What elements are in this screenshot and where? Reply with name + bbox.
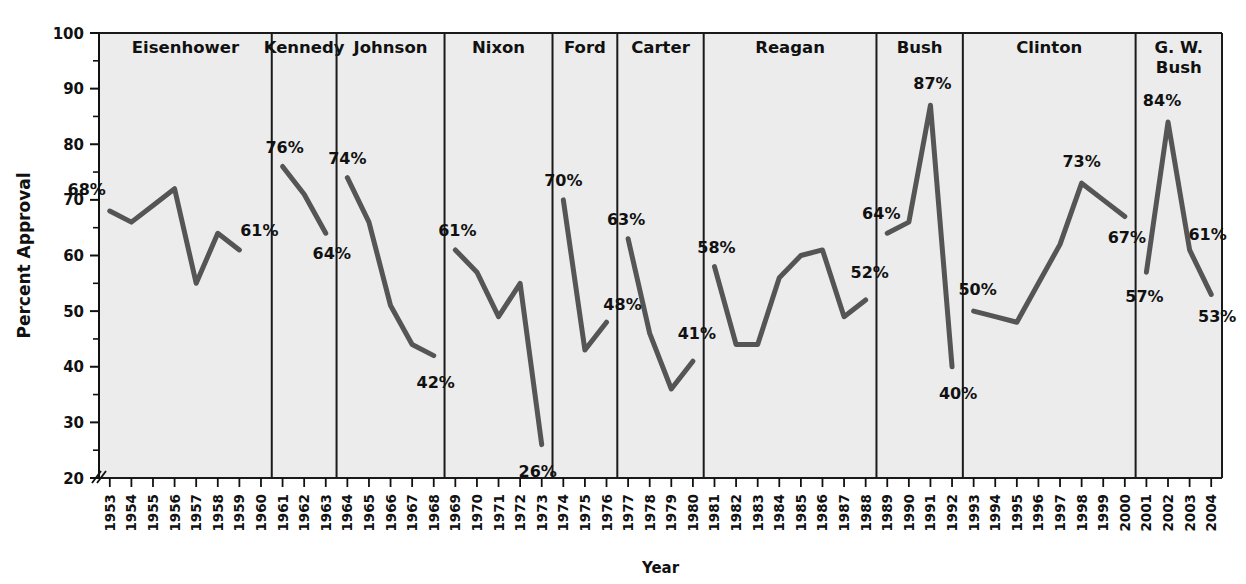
x-tick-label: 1958: [210, 494, 226, 532]
x-tick-label: 1979: [663, 494, 679, 532]
x-axis-title: Year: [641, 559, 680, 577]
x-tick-label: 1991: [922, 494, 938, 532]
panel-title-johnson: Johnson: [353, 38, 428, 57]
value-annotation: 73%: [1062, 152, 1100, 171]
y-tick-label: 60: [63, 247, 84, 265]
value-annotation: 41%: [678, 324, 716, 343]
value-annotation: 76%: [265, 138, 303, 157]
panel-title-ford: Ford: [564, 38, 606, 57]
panel-title-carter: Carter: [631, 38, 690, 57]
approval-rating-chart: EisenhowerKennedyJohnsonNixonFordCarterR…: [0, 0, 1246, 584]
value-annotation: 42%: [417, 373, 455, 392]
x-tick-label: 1981: [706, 494, 722, 532]
x-tick-label: 1960: [253, 494, 269, 532]
x-tick-label: 1978: [642, 494, 658, 532]
chart-canvas: EisenhowerKennedyJohnsonNixonFordCarterR…: [0, 0, 1246, 584]
x-tick-label: 2002: [1160, 494, 1176, 532]
x-tick-label: 1956: [167, 494, 183, 532]
value-annotation: 61%: [438, 221, 476, 240]
x-tick-label: 1987: [836, 494, 852, 532]
value-annotation: 57%: [1125, 287, 1163, 306]
x-tick-label: 1995: [1009, 494, 1025, 532]
value-annotation: 61%: [240, 221, 278, 240]
x-tick-label: 1955: [145, 494, 161, 532]
value-annotation: 61%: [1188, 225, 1226, 244]
x-tick-label: 1965: [361, 494, 377, 532]
x-tick-label: 1996: [1030, 494, 1046, 532]
x-tick-label: 1961: [275, 494, 291, 532]
x-tick-label: 1971: [491, 494, 507, 532]
panel-title-reagan: Reagan: [755, 38, 825, 57]
x-tick-label: 1963: [318, 494, 334, 532]
x-tick-label: 1986: [814, 494, 830, 532]
x-tick-label: 1954: [123, 494, 139, 532]
x-tick-label: 1972: [512, 494, 528, 532]
value-annotation: 67%: [1108, 228, 1146, 247]
x-tick-label: 2003: [1182, 494, 1198, 532]
x-tick-label: 1983: [750, 494, 766, 532]
value-annotation: 53%: [1198, 307, 1236, 326]
x-tick-label: 1968: [426, 494, 442, 532]
x-tick-label: 1998: [1074, 494, 1090, 532]
x-tick-label: 1999: [1095, 494, 1111, 532]
x-tick-label: 1973: [534, 494, 550, 532]
y-tick-label: 90: [63, 80, 84, 98]
x-tick-label: 1990: [901, 494, 917, 532]
x-tick-label: 1953: [102, 494, 118, 532]
y-tick-label: 50: [63, 303, 84, 321]
x-tick-label: 1974: [555, 494, 571, 532]
value-annotation: 64%: [313, 244, 351, 263]
value-annotation: 68%: [68, 180, 106, 199]
x-tick-label: 1967: [404, 494, 420, 532]
x-tick-label: 1970: [469, 494, 485, 532]
value-annotation: 26%: [519, 462, 557, 481]
x-tick-label: 1980: [685, 494, 701, 532]
value-annotation: 63%: [607, 210, 645, 229]
panel-title-eisenhower: Eisenhower: [132, 38, 240, 57]
panel-title-kennedy: Kennedy: [264, 38, 345, 57]
value-annotation: 74%: [328, 149, 366, 168]
x-tick-label: 1993: [966, 494, 982, 532]
value-annotation: 40%: [939, 384, 977, 403]
x-tick-label: 1992: [944, 494, 960, 532]
x-tick-label: 1985: [793, 494, 809, 532]
x-tick-label: 2000: [1117, 494, 1133, 532]
x-tick-label: 1977: [620, 494, 636, 532]
x-tick-label: 1989: [879, 494, 895, 532]
x-tick-label: 1994: [987, 494, 1003, 532]
value-annotation: 58%: [697, 238, 735, 257]
panel-title-clinton: Clinton: [1016, 38, 1082, 57]
panel-title-nixon: Nixon: [472, 38, 525, 57]
x-tick-label: 2004: [1203, 494, 1219, 532]
x-tick-label: 1962: [296, 494, 312, 532]
value-annotation: 48%: [603, 295, 641, 314]
x-tick-label: 1988: [858, 494, 874, 532]
y-tick-label: 20: [63, 470, 84, 488]
panel-title-gwbush: G. W.: [1154, 38, 1203, 57]
value-annotation: 84%: [1143, 91, 1181, 110]
x-tick-label: 1976: [599, 494, 615, 532]
y-axis-title: Percent Approval: [14, 172, 34, 338]
x-tick-label: 1984: [771, 494, 787, 532]
value-annotation: 70%: [544, 171, 582, 190]
y-tick-label: 30: [63, 414, 84, 432]
x-tick-label: 1966: [383, 494, 399, 532]
x-tick-label: 1969: [447, 494, 463, 532]
x-tick-label: 2001: [1138, 494, 1154, 532]
value-annotation: 50%: [958, 280, 996, 299]
y-tick-label: 40: [63, 358, 84, 376]
value-annotation: 52%: [851, 263, 889, 282]
x-tick-label: 1964: [339, 494, 355, 532]
x-tick-label: 1957: [188, 494, 204, 532]
value-annotation: 87%: [913, 74, 951, 93]
panel-title-gwbush: Bush: [1156, 58, 1202, 77]
x-tick-label: 1959: [231, 494, 247, 532]
x-tick-label: 1982: [728, 494, 744, 532]
y-tick-label: 80: [63, 136, 84, 154]
value-annotation: 64%: [862, 204, 900, 223]
x-tick-label: 1975: [577, 494, 593, 532]
x-tick-label: 1997: [1052, 494, 1068, 532]
panel-title-bush: Bush: [897, 38, 943, 57]
y-tick-label: 100: [53, 25, 84, 43]
